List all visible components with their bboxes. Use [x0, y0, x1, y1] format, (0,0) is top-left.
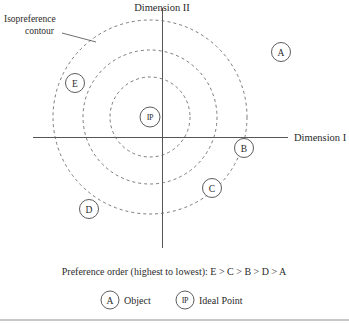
isopreference-contour-figure: Dimension II Dimension I Isopreference c… — [0, 0, 349, 323]
legend-ideal-point-entry: IP Ideal Point — [176, 291, 243, 309]
isopreference-callout-line1: Isopreference — [4, 14, 56, 24]
plot-canvas: Dimension II Dimension I Isopreference c… — [0, 0, 349, 323]
axes-group — [33, 8, 288, 248]
legend-object-marker-label: A — [107, 296, 114, 306]
bottom-divider — [0, 319, 349, 321]
object-marker-c-label: C — [209, 184, 215, 194]
object-marker-e-label: E — [72, 79, 78, 89]
legend-object-entry: A Object — [101, 291, 151, 309]
ideal-point-marker-label: IP — [147, 113, 154, 122]
isopreference-callout-leader-line — [62, 33, 96, 42]
legend-ideal-point-label: Ideal Point — [199, 295, 243, 306]
object-marker-d[interactable]: D — [80, 200, 99, 219]
object-marker-d-label: D — [86, 205, 93, 215]
object-marker-c[interactable]: C — [203, 179, 222, 198]
ideal-point-marker[interactable]: IP — [140, 107, 160, 127]
legend-ideal-point-marker-label: IP — [182, 296, 189, 305]
legend-object-label: Object — [124, 295, 151, 306]
object-marker-a[interactable]: A — [272, 43, 291, 62]
isopreference-callout-line2: contour — [25, 26, 55, 36]
object-marker-a-label: A — [278, 48, 285, 58]
object-marker-b[interactable]: B — [235, 139, 254, 158]
preference-order-caption: Preference order (highest to lowest): E … — [62, 266, 287, 278]
object-marker-e[interactable]: E — [66, 74, 85, 93]
dimension-i-axis-label: Dimension I — [294, 132, 347, 143]
legend-group: A Object IP Ideal Point — [101, 291, 243, 309]
object-marker-b-label: B — [241, 144, 247, 154]
dimension-ii-axis-label: Dimension II — [134, 2, 190, 13]
